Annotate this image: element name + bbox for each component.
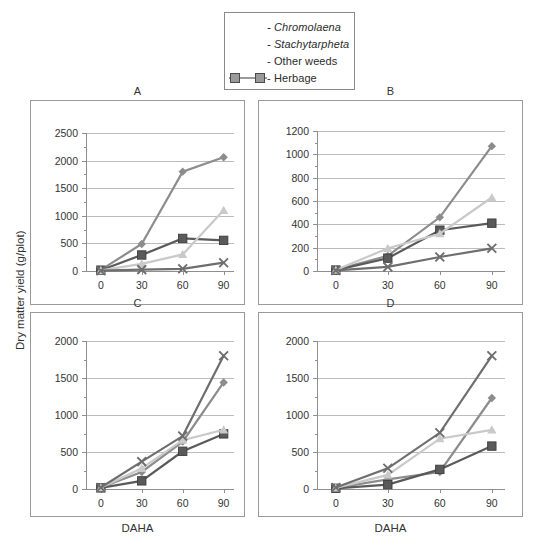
panel-title-d: D bbox=[259, 297, 522, 309]
legend-item-otherweeds: - Other weeds bbox=[225, 52, 354, 69]
marker-square bbox=[436, 465, 444, 473]
x-tick-label: 0 bbox=[98, 279, 104, 291]
series-other-weeds bbox=[96, 425, 228, 491]
legend-item-stachytarpheta: - Stachytarpheta bbox=[225, 35, 354, 52]
series-other-weeds bbox=[331, 425, 496, 491]
marker-triangle bbox=[487, 193, 496, 201]
series-stachytarpheta bbox=[332, 219, 496, 274]
panel-title-a: A bbox=[31, 85, 244, 97]
x-tick-label: 0 bbox=[333, 497, 339, 509]
series-line bbox=[101, 356, 224, 488]
legend-marker-triangle-marker bbox=[229, 54, 267, 67]
y-tick-label: 500 bbox=[38, 446, 78, 458]
y-tick-label: 0 bbox=[38, 265, 78, 277]
marker-square bbox=[488, 219, 496, 227]
series-chromolaena bbox=[97, 153, 228, 274]
y-tick-label: 2000 bbox=[38, 155, 78, 167]
legend-label: - Stachytarpheta bbox=[267, 38, 349, 50]
x-tick-label: 90 bbox=[218, 497, 230, 509]
series-chromolaena bbox=[97, 378, 228, 491]
y-tick-label: 2000 bbox=[38, 335, 78, 347]
x-tick-label: 60 bbox=[177, 279, 189, 291]
x-tick-label: 30 bbox=[136, 497, 148, 509]
series-herbage bbox=[331, 351, 496, 492]
series-line bbox=[101, 157, 224, 270]
legend-item-herbage: - Herbage bbox=[225, 69, 354, 86]
series-herbage bbox=[331, 244, 496, 275]
legend-label: - Chromolaena bbox=[267, 21, 341, 33]
x-tick-label: 60 bbox=[177, 497, 189, 509]
legend: - Chromolaena- Stachytarpheta- Other wee… bbox=[224, 12, 355, 90]
y-tick-label: 2500 bbox=[38, 127, 78, 139]
marker-square bbox=[138, 477, 146, 485]
x-tick-label: 90 bbox=[218, 279, 230, 291]
chart-panel-a: A050010001500200025000306090 bbox=[30, 100, 245, 305]
x-tick-label: 90 bbox=[486, 279, 498, 291]
x-tick-label: 30 bbox=[382, 279, 394, 291]
legend-item-chromolaena: - Chromolaena bbox=[225, 18, 354, 35]
x-tick-label: 60 bbox=[434, 497, 446, 509]
chart-panel-c: C05001000150020000306090DAHA bbox=[30, 312, 245, 517]
marker-x bbox=[219, 351, 228, 360]
x-axis-title: DAHA bbox=[31, 522, 244, 534]
x-tick-label: 90 bbox=[486, 497, 498, 509]
chart-panel-d: D05001000150020000306090DAHA bbox=[258, 312, 523, 517]
x-tick-label: 0 bbox=[98, 497, 104, 509]
legend-square-marker-right bbox=[255, 73, 265, 83]
series-chromolaena bbox=[332, 142, 496, 274]
legend-marker-diamond-marker bbox=[229, 20, 267, 33]
series-layer bbox=[86, 133, 234, 273]
series-layer bbox=[86, 341, 234, 491]
legend-marker-square-marker bbox=[229, 37, 267, 50]
chart-panel-b: B0200400600800100012000306090 bbox=[258, 100, 523, 305]
y-tick-label: 1500 bbox=[269, 372, 309, 384]
marker-square bbox=[178, 447, 186, 455]
y-tick-label: 1000 bbox=[38, 409, 78, 421]
marker-square bbox=[384, 480, 392, 488]
marker-square bbox=[138, 251, 146, 259]
y-tick-label: 500 bbox=[38, 237, 78, 249]
y-tick-label: 1000 bbox=[269, 148, 309, 160]
plot-area-b: 0200400600800100012000306090 bbox=[317, 131, 505, 271]
series-line bbox=[336, 356, 492, 488]
marker-square bbox=[219, 236, 227, 244]
series-herbage bbox=[96, 351, 228, 492]
series-line bbox=[336, 398, 492, 488]
panel-title-b: B bbox=[259, 85, 522, 97]
series-layer bbox=[317, 341, 505, 491]
marker-triangle bbox=[219, 206, 228, 214]
y-axis-title: Dry matter yield (g/plot) bbox=[14, 230, 26, 350]
y-tick-label: 0 bbox=[269, 483, 309, 495]
marker-square bbox=[178, 234, 186, 242]
x-tick-label: 30 bbox=[136, 279, 148, 291]
x-tick-label: 30 bbox=[382, 497, 394, 509]
y-tick-label: 200 bbox=[269, 242, 309, 254]
legend-label: - Herbage bbox=[267, 72, 317, 84]
panel-title-c: C bbox=[31, 297, 244, 309]
y-tick-label: 500 bbox=[269, 446, 309, 458]
y-tick-label: 1000 bbox=[38, 210, 78, 222]
x-tick-label: 60 bbox=[434, 279, 446, 291]
plot-area-d: 05001000150020000306090 bbox=[317, 341, 505, 489]
y-tick-label: 2000 bbox=[269, 335, 309, 347]
y-tick-label: 1500 bbox=[38, 182, 78, 194]
marker-square bbox=[384, 254, 392, 262]
x-axis-title: DAHA bbox=[259, 522, 522, 534]
marker-x bbox=[487, 351, 496, 360]
figure-root: - Chromolaena- Stachytarpheta- Other wee… bbox=[0, 0, 550, 548]
marker-square bbox=[488, 442, 496, 450]
y-tick-label: 1000 bbox=[269, 409, 309, 421]
x-tick-label: 0 bbox=[333, 279, 339, 291]
y-tick-label: 600 bbox=[269, 195, 309, 207]
y-tick-label: 800 bbox=[269, 172, 309, 184]
series-line bbox=[101, 430, 224, 488]
y-tick-label: 400 bbox=[269, 218, 309, 230]
series-line bbox=[336, 198, 492, 271]
plot-area-c: 05001000150020000306090 bbox=[86, 341, 234, 489]
legend-square-marker-left bbox=[230, 73, 240, 83]
plot-area-a: 050010001500200025000306090 bbox=[86, 133, 234, 271]
legend-marker-square-marker bbox=[229, 71, 267, 84]
legend-label: - Other weeds bbox=[267, 55, 337, 67]
y-tick-label: 1200 bbox=[269, 125, 309, 137]
y-tick-label: 0 bbox=[38, 483, 78, 495]
